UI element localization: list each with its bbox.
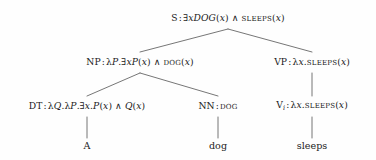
node-vi-semantics: λx.SLEEPS(x) <box>291 99 348 110</box>
node-vp-category: VP <box>274 56 287 67</box>
node-dt-semantics: λQ.λP.∃x.P(x) ∧ Q(x) <box>48 100 145 111</box>
tree-node-vi: Vi:λx.SLEEPS(x) <box>276 100 348 111</box>
node-dt-category: DT <box>29 100 43 111</box>
logic-variable: xDOG <box>188 12 216 23</box>
tree-edge-layer <box>0 0 376 160</box>
tree-leaf-determiner: A <box>84 141 91 151</box>
logic-operator: ) <box>344 99 348 110</box>
edge-s-to-vp <box>228 29 312 52</box>
node-nn-category: NN <box>198 100 214 111</box>
predicate-constant: SLEEPS <box>305 99 335 110</box>
logic-operator: .∃ <box>77 100 85 111</box>
syntax-tree-figure: S:∃xDOG(x) ∧ SLEEPS(x) NP:λP.∃xP(x) ∧ DO… <box>0 0 376 160</box>
logic-operator: ) <box>281 12 285 23</box>
logic-variable: xP <box>126 56 138 67</box>
tree-node-np: NP:λP.∃xP(x) ∧ DOG(x) <box>86 57 194 67</box>
node-vi-category: V <box>276 99 283 110</box>
tree-node-vp: VP:λx.SLEEPS(x) <box>274 57 350 67</box>
node-np-category: NP <box>86 56 100 67</box>
logic-variable: Q <box>54 100 62 111</box>
tree-leaf-noun: dog <box>209 141 227 151</box>
leaf-determiner-text: A <box>84 140 91 151</box>
predicate-constant: DOG <box>220 100 238 111</box>
tree-node-dt: DT:λQ.λP.∃x.P(x) ∧ Q(x) <box>29 101 146 110</box>
logic-operator: ) <box>190 56 194 67</box>
predicate-constant: SLEEPS <box>242 12 272 23</box>
logic-operator: .λ <box>61 100 70 111</box>
logic-variable: Q <box>125 100 133 111</box>
logic-operator: ) <box>142 100 146 111</box>
node-nn-semantics: DOG <box>220 100 238 111</box>
edge-s-to-np <box>140 29 228 52</box>
node-np-semantics: λP.∃xP(x) ∧ DOG(x) <box>106 56 194 67</box>
logic-operator: ) ∧ <box>108 100 125 111</box>
node-vp-semantics: λx.SLEEPS(x) <box>293 56 350 67</box>
leaf-verb-text: sleeps <box>297 140 327 151</box>
edge-np-to-dt <box>87 73 140 96</box>
logic-operator: ) ∧ <box>225 12 242 23</box>
node-s-semantics: ∃xDOG(x) ∧ SLEEPS(x) <box>183 12 285 23</box>
predicate-constant: SLEEPS <box>307 56 337 67</box>
edge-np-to-nn <box>140 73 218 96</box>
predicate-constant: DOG <box>164 56 182 67</box>
tree-leaf-verb: sleeps <box>297 141 327 151</box>
leaf-noun-text: dog <box>209 140 227 151</box>
tree-node-nn: NN:DOG <box>198 101 237 111</box>
tree-node-s: S:∃xDOG(x) ∧ SLEEPS(x) <box>171 13 284 23</box>
logic-operator: .∃ <box>118 56 126 67</box>
logic-operator: ) ∧ <box>147 56 164 67</box>
logic-operator: ) <box>346 56 350 67</box>
